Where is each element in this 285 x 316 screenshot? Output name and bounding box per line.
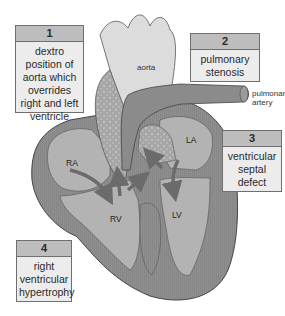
callout-4-right-ventricular-hypertrophy: 4 right ventricular hypertrophy — [16, 240, 72, 302]
callout-number: 2 — [191, 34, 259, 50]
callout-number: 3 — [223, 131, 281, 147]
pulmonary-artery-label-line2: artery — [252, 98, 285, 107]
chamber-label-rv: RV — [110, 214, 122, 224]
callout-text: ventricular septal defect — [223, 147, 281, 192]
aorta-label: aorta — [137, 63, 155, 72]
callout-3-ventricular-septal-defect: 3 ventricular septal defect — [222, 130, 282, 192]
pulmonary-artery-label-line1: pulmonary — [252, 89, 285, 98]
tetralogy-of-fallot-diagram: aorta pulmonary artery RA LA RV LV 1 dex… — [0, 0, 285, 316]
callout-1-overriding-aorta: 1 dextro position of aorta which overrid… — [15, 25, 84, 113]
callout-text: right ventricular hypertrophy — [17, 257, 71, 302]
chamber-label-lv: LV — [172, 210, 182, 220]
callout-2-pulmonary-stenosis: 2 pulmonary stenosis — [190, 33, 260, 82]
chamber-label-la: LA — [186, 135, 196, 145]
callout-number: 1 — [16, 26, 83, 42]
pulmonary-artery-label: pulmonary artery — [252, 89, 285, 107]
arrow-rv-to-aorta — [118, 176, 120, 196]
callout-text: pulmonary stenosis — [191, 50, 259, 82]
chamber-label-ra: RA — [66, 158, 78, 168]
callout-text: dextro position of aorta which overrides… — [16, 42, 83, 126]
callout-number: 4 — [17, 241, 71, 257]
